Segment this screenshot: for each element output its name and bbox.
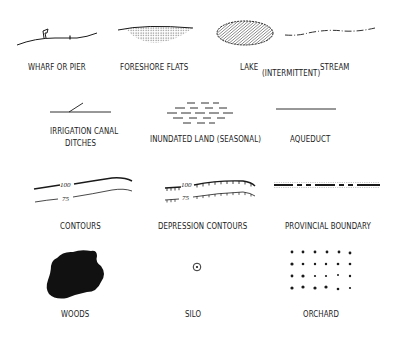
irrigation-canal-ditches-symbol bbox=[48, 100, 113, 115]
stream-intermittent-symbol bbox=[283, 24, 378, 40]
irrigation-canal-label: IRRIGATION CANAL bbox=[50, 126, 118, 136]
wharf-or-pier-symbol bbox=[15, 25, 100, 50]
lake-label: LAKE bbox=[240, 62, 258, 72]
contours-label: CONTOURS bbox=[60, 221, 101, 231]
orchard-label: ORCHARD bbox=[303, 309, 339, 319]
contours-symbol: 100 75 bbox=[32, 177, 137, 207]
provincial-boundary-symbol bbox=[273, 180, 381, 190]
woods-symbol bbox=[45, 248, 107, 300]
foreshore-flats-symbol bbox=[115, 22, 195, 47]
inundated-land-label: INUNDATED LAND (SEASONAL) bbox=[150, 134, 261, 144]
aqueduct-symbol bbox=[275, 106, 337, 112]
ditches-label: DITCHES bbox=[65, 138, 96, 148]
svg-text:100: 100 bbox=[181, 181, 192, 189]
silo-label: SILO bbox=[185, 309, 201, 319]
wharf-or-pier-label: WHARF OR PIER bbox=[28, 62, 86, 72]
intermittent-label: (INTERMITTENT) bbox=[262, 68, 320, 78]
aqueduct-label: AQUEDUCT bbox=[290, 134, 330, 144]
woods-label: WOODS bbox=[61, 309, 89, 319]
silo-symbol bbox=[192, 262, 202, 272]
svg-text:75: 75 bbox=[182, 194, 190, 202]
depression-contours-symbol: 100 75 bbox=[163, 177, 258, 205]
lake-intermittent-symbol bbox=[214, 18, 276, 48]
svg-text:75: 75 bbox=[62, 195, 70, 203]
foreshore-flats-label: FORESHORE FLATS bbox=[120, 62, 188, 72]
depression-contours-label: DEPRESSION CONTOURS bbox=[158, 221, 247, 231]
orchard-symbol bbox=[286, 248, 356, 296]
svg-text:100: 100 bbox=[60, 181, 71, 189]
provincial-boundary-label: PROVINCIAL BOUNDARY bbox=[285, 221, 371, 231]
inundated-land-symbol bbox=[165, 100, 240, 128]
stream-label: STREAM bbox=[320, 62, 350, 72]
